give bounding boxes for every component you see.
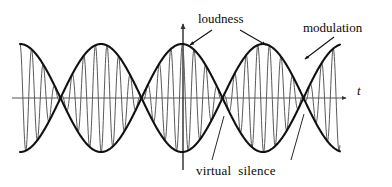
modulation-arrow-line [305,37,334,59]
virtual-silence-leaders [212,114,304,160]
loudness-arrows [190,30,266,45]
loudness-arrow-right [240,30,266,45]
figure-amplitude-modulation: loudness modulation virtual silence t [0,0,392,187]
annotation-label-virtual-silence: virtual silence [196,164,276,177]
loudness-arrow-left [190,30,212,45]
t-axis-label: t [357,84,361,97]
annotation-label-modulation: modulation [303,21,362,34]
virtual-silence-leader-left [212,116,224,160]
modulation-arrow [305,37,334,59]
annotation-label-loudness: loudness [198,12,244,25]
